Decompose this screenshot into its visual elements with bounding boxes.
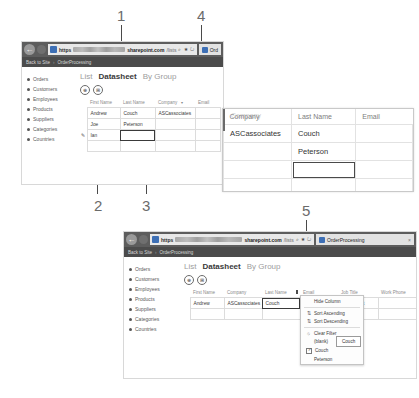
sidebar-item-suppliers[interactable]: Suppliers bbox=[124, 304, 178, 314]
back-arrow-icon[interactable]: ← bbox=[126, 234, 137, 245]
cell-empty[interactable] bbox=[155, 141, 195, 152]
cell-empty[interactable] bbox=[120, 141, 155, 152]
cell-last-name[interactable]: Couch bbox=[120, 108, 155, 119]
magnifier-table-row[interactable] bbox=[224, 179, 413, 193]
sidebar-item-orders[interactable]: Orders bbox=[22, 74, 74, 84]
magnifier-cell-email[interactable] bbox=[356, 125, 413, 143]
magnifier-cell-email[interactable] bbox=[356, 179, 413, 193]
magnifier-cell-company[interactable]: ASCassociates bbox=[224, 125, 292, 143]
tab-list[interactable]: List bbox=[80, 72, 92, 81]
sidebar-item-employees[interactable]: Employees bbox=[124, 284, 178, 294]
tab-datasheet[interactable]: Datasheet bbox=[202, 262, 240, 271]
cell-empty[interactable] bbox=[87, 141, 120, 152]
sidebar-item-products[interactable]: Products bbox=[124, 294, 178, 304]
table-row[interactable]: ✎ Ian bbox=[80, 130, 220, 141]
forward-arrow-icon[interactable] bbox=[139, 235, 148, 244]
menu-item-filter-peterson[interactable]: Peterson bbox=[301, 355, 363, 363]
magnifier-cell-email[interactable] bbox=[356, 143, 413, 161]
column-header-email[interactable]: Email bbox=[195, 98, 220, 108]
breadcrumb-back-to-site[interactable]: Back to Site bbox=[26, 60, 50, 65]
column-header-work-phone[interactable]: Work Phone bbox=[378, 288, 416, 298]
cell-email[interactable] bbox=[195, 130, 220, 141]
address-bar[interactable]: https sharepoint.com /lists ⌕ ★ ↻ bbox=[150, 234, 314, 245]
new-item-icon[interactable]: ⊕ bbox=[80, 85, 90, 95]
sidebar-item-customers[interactable]: Customers bbox=[22, 84, 74, 94]
cell-company[interactable] bbox=[155, 119, 195, 130]
cell-last-name-active[interactable]: Couch bbox=[262, 298, 300, 309]
breadcrumb-back-to-site[interactable]: Back to Site bbox=[128, 250, 152, 255]
cell-work-phone[interactable] bbox=[378, 309, 416, 320]
cell-first-name[interactable]: Ian bbox=[87, 130, 120, 141]
cell-last-name[interactable] bbox=[262, 309, 300, 320]
tab-datasheet[interactable]: Datasheet bbox=[98, 72, 136, 81]
sidebar-item-categories[interactable]: Categories bbox=[124, 314, 178, 324]
magnifier-column-header-email[interactable]: Email bbox=[356, 109, 413, 125]
column-header-last-name[interactable]: Last Name bbox=[120, 98, 155, 108]
cell-company[interactable] bbox=[155, 130, 195, 141]
cell-first-name[interactable]: Andrew bbox=[190, 298, 224, 309]
magnifier-table-row[interactable]: ASCassociates Couch bbox=[224, 125, 413, 143]
menu-item-filter-couch[interactable]: ✓ Couch bbox=[301, 346, 363, 355]
browser-tab[interactable]: Ord bbox=[199, 44, 221, 55]
filter-icon[interactable] bbox=[296, 290, 299, 294]
magnifier-cell-last-name[interactable] bbox=[292, 179, 356, 193]
address-bar-icons[interactable]: ⌕ ★ ↻ bbox=[296, 236, 312, 243]
menu-item-hide-column[interactable]: Hide Column bbox=[301, 297, 363, 305]
magnifier-cell-company[interactable] bbox=[224, 179, 292, 193]
magnifier-cell-last-name[interactable]: Couch bbox=[292, 125, 356, 143]
address-bar-icons[interactable]: ⌕ ★ ↻ bbox=[178, 46, 194, 53]
close-icon[interactable]: × bbox=[408, 237, 411, 243]
sidebar-item-employees[interactable]: Employees bbox=[22, 94, 74, 104]
column-header-company[interactable]: Company ▾ bbox=[155, 98, 195, 108]
cell-work-phone[interactable] bbox=[378, 298, 416, 309]
column-header-first-name[interactable]: First Name bbox=[190, 288, 224, 298]
cell-empty[interactable] bbox=[195, 141, 220, 152]
magnifier-table-row[interactable] bbox=[224, 161, 413, 179]
menu-item-sort-ascending[interactable]: ⇅ Sort Ascending bbox=[301, 309, 363, 317]
magnifier-column-header-last-name[interactable]: Last Name bbox=[292, 109, 356, 125]
cell-email[interactable] bbox=[195, 119, 220, 130]
cell-company[interactable]: ASCassociates bbox=[224, 298, 262, 309]
address-bar[interactable]: https sharepoint.com /lists ⌕ ★ ↻ bbox=[48, 44, 197, 55]
sidebar-item-orders[interactable]: Orders bbox=[124, 264, 178, 274]
cell-last-name[interactable]: Peterson bbox=[120, 119, 155, 130]
sidebar-item-products[interactable]: Products bbox=[22, 104, 74, 114]
new-item-icon[interactable]: ⊕ bbox=[184, 275, 194, 285]
sidebar-item-countries[interactable]: Countries bbox=[22, 134, 74, 144]
column-header-last-name[interactable]: Last Name bbox=[262, 288, 300, 298]
cell-first-name[interactable]: Andrew bbox=[87, 108, 120, 119]
cell-last-name-selected[interactable] bbox=[120, 130, 155, 141]
checkbox-checked-icon[interactable]: ✓ bbox=[306, 348, 312, 354]
browser-tab[interactable]: OrderProcessing × bbox=[316, 234, 414, 245]
pencil-edit-icon[interactable]: ✎ bbox=[81, 132, 85, 138]
forward-arrow-icon[interactable] bbox=[37, 45, 46, 54]
sidebar-item-countries[interactable]: Countries bbox=[124, 324, 178, 334]
cell-first-name[interactable] bbox=[190, 309, 224, 320]
magnifier-cell-email[interactable] bbox=[356, 161, 413, 179]
sidebar-item-customers[interactable]: Customers bbox=[124, 274, 178, 284]
magnifier-cell-company[interactable] bbox=[224, 161, 292, 179]
menu-item-sort-descending[interactable]: ⇅ Sort Descending bbox=[301, 317, 363, 325]
magnifier-cell-company[interactable] bbox=[224, 143, 292, 161]
chevron-down-icon[interactable]: ▾ bbox=[181, 100, 183, 105]
column-header-company[interactable]: Company bbox=[224, 288, 262, 298]
tab-by-group[interactable]: By Group bbox=[247, 262, 281, 271]
cell-email[interactable] bbox=[195, 108, 220, 119]
sidebar-item-categories[interactable]: Categories bbox=[22, 124, 74, 134]
sidebar-item-suppliers[interactable]: Suppliers bbox=[22, 114, 74, 124]
cell-company[interactable]: ASCassociates bbox=[155, 108, 195, 119]
magnifier-table-row[interactable]: Peterson bbox=[224, 143, 413, 161]
column-header-first-name[interactable]: First Name bbox=[87, 98, 120, 108]
cell-first-name[interactable]: Joe bbox=[87, 119, 120, 130]
cell-company[interactable] bbox=[224, 309, 262, 320]
table-row[interactable]: Joe Peterson bbox=[80, 119, 220, 130]
magnifier-cell-last-name-selected[interactable] bbox=[292, 161, 356, 179]
back-arrow-icon[interactable]: ← bbox=[24, 44, 35, 55]
magnifier-cell-last-name[interactable]: Peterson bbox=[292, 143, 356, 161]
magnifier-column-header-company[interactable]: Company bbox=[224, 109, 292, 125]
edit-grid-icon[interactable]: ⊞ bbox=[93, 85, 103, 95]
tab-by-group[interactable]: By Group bbox=[143, 72, 177, 81]
table-row[interactable] bbox=[80, 141, 220, 152]
tab-list[interactable]: List bbox=[184, 262, 196, 271]
table-row[interactable]: Andrew Couch ASCassociates bbox=[80, 108, 220, 119]
